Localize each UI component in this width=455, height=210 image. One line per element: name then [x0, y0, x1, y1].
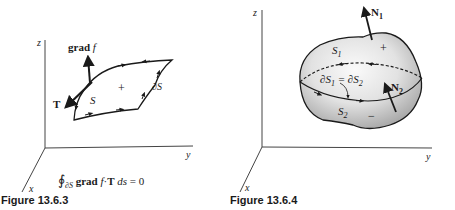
z-axis-label: z: [253, 8, 257, 18]
orientation-plus: +: [118, 82, 125, 94]
figure-13-6-4: z y x N1 N2 S1 S2 + − ∂S1 = ∂S2 Figure 1…: [228, 0, 455, 210]
normal-n1-label: N1: [371, 7, 383, 21]
minus-sign: −: [368, 110, 375, 122]
x-axis: [240, 147, 262, 192]
y-axis: [45, 146, 193, 148]
y-axis: [262, 147, 432, 148]
y-axis-label: y: [186, 150, 190, 160]
equation: ∮∂S grad f·T ds = 0: [58, 174, 144, 190]
y-axis-label: y: [426, 152, 430, 162]
x-axis-label: x: [29, 184, 33, 194]
normal-n2-label: N2: [391, 82, 403, 96]
grad-f-arrow: [88, 57, 90, 83]
figure-caption: Figure 13.6.3: [1, 195, 68, 206]
surface-label: S: [90, 95, 96, 106]
boundary-equality-label: ∂S1 = ∂S2: [320, 74, 363, 88]
figure-13-6-3: z y x grad f T S + ∂S ∮∂S grad f·T ds = …: [0, 0, 228, 210]
x-axis-label: x: [245, 183, 249, 193]
surface-s2-label: S2: [338, 106, 348, 120]
z-axis-label: z: [37, 38, 41, 48]
tangent-label: T: [53, 99, 60, 110]
figure-caption: Figure 13.6.4: [230, 195, 297, 206]
x-axis: [22, 148, 45, 192]
surface-s1-label: S1: [332, 45, 342, 59]
grad-f-label: grad f: [68, 42, 96, 53]
boundary-label: ∂S: [152, 82, 162, 92]
plus-sign: +: [380, 42, 387, 54]
